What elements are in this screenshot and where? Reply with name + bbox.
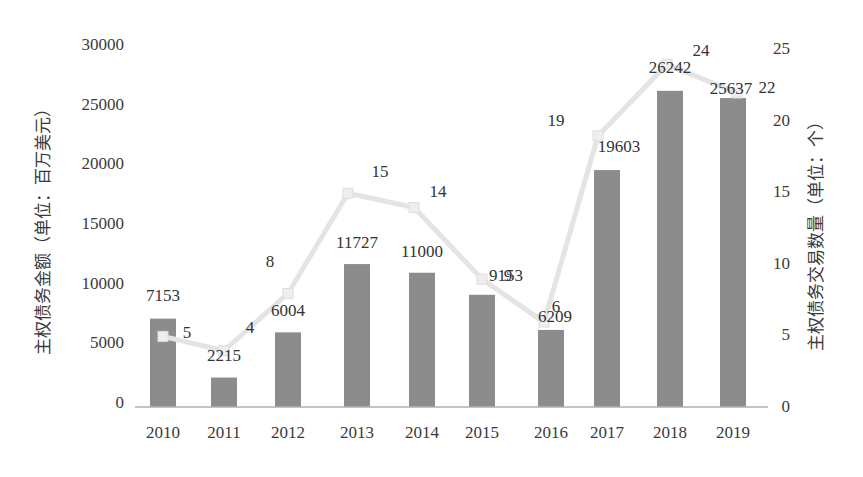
bar-2017 xyxy=(594,170,620,407)
bar-value-label: 2215 xyxy=(207,346,241,365)
x-tick-label: 2016 xyxy=(534,423,568,442)
line-value-label: 4 xyxy=(246,318,255,337)
left-y-axis-title: 主权债务金额（单位：百万美元） xyxy=(34,100,53,355)
x-tick-label: 2013 xyxy=(340,423,374,442)
bar-2014 xyxy=(409,273,435,407)
bar-2012 xyxy=(275,332,301,407)
left-y-tick-label: 20000 xyxy=(82,154,125,173)
x-tick-label: 2017 xyxy=(590,423,625,442)
x-tick-label: 2018 xyxy=(653,423,687,442)
bar-value-label: 26242 xyxy=(649,58,692,77)
line-value-label: 14 xyxy=(430,182,448,201)
line-value-label: 15 xyxy=(372,162,389,181)
line-value-label: 19 xyxy=(548,111,565,130)
line-value-label: 22 xyxy=(759,78,776,97)
line-marker-2014 xyxy=(409,203,419,213)
line-value-label: 5 xyxy=(183,323,192,342)
right-y-tick-label: 15 xyxy=(773,182,790,201)
bar-value-label: 6004 xyxy=(271,301,306,320)
right-y-tick-label: 10 xyxy=(773,254,790,273)
x-tick-label: 2015 xyxy=(465,423,499,442)
right-y-tick-label: 25 xyxy=(773,39,790,58)
line-value-label: 24 xyxy=(693,41,711,60)
bar-2016 xyxy=(538,330,564,407)
line-marker-2010 xyxy=(158,331,168,341)
x-tick-label: 2014 xyxy=(405,423,440,442)
line-marker-2015 xyxy=(477,274,487,284)
line-marker-2013 xyxy=(343,188,353,198)
bar-value-label: 19603 xyxy=(598,137,641,156)
left-y-tick-label: 0 xyxy=(116,393,125,412)
bar-value-label: 7153 xyxy=(146,286,180,305)
bar-2019 xyxy=(720,98,746,407)
x-axis-ticks: 2010201120122013201420152016201720182019 xyxy=(146,423,750,442)
bar-2018 xyxy=(657,91,683,407)
line-series xyxy=(158,59,742,355)
x-tick-label: 2010 xyxy=(146,423,180,442)
line-value-label: 9 xyxy=(504,266,513,285)
x-tick-label: 2019 xyxy=(716,423,750,442)
right-y-tick-label: 0 xyxy=(782,397,791,416)
right-y-axis-title: 主权债务交易数量（单位：个） xyxy=(807,113,826,351)
left-y-tick-label: 25000 xyxy=(82,95,125,114)
left-y-tick-label: 30000 xyxy=(82,35,125,54)
bar-value-label: 25637 xyxy=(710,79,753,98)
bar-2013 xyxy=(344,264,370,407)
bar-2011 xyxy=(211,378,237,407)
bar-value-label: 11727 xyxy=(336,233,378,252)
bar-2015 xyxy=(469,295,495,407)
line-value-label: 8 xyxy=(266,252,275,271)
right-y-tick-label: 5 xyxy=(782,325,791,344)
line-marker-2012 xyxy=(283,288,293,298)
right-y-tick-label: 20 xyxy=(773,111,790,130)
x-tick-label: 2012 xyxy=(271,423,305,442)
x-tick-label: 2011 xyxy=(207,423,240,442)
right-y-axis-ticks: 0510152025 xyxy=(773,39,790,416)
left-y-tick-label: 15000 xyxy=(82,214,125,233)
chart-canvas: 050001000015000200002500030000 051015202… xyxy=(0,0,863,477)
left-y-tick-label: 10000 xyxy=(82,274,125,293)
line-path xyxy=(163,64,737,350)
bar-value-label: 11000 xyxy=(401,242,443,261)
line-value-label: 6 xyxy=(552,297,561,316)
left-y-axis-ticks: 050001000015000200002500030000 xyxy=(82,35,125,412)
left-y-tick-label: 5000 xyxy=(90,333,124,352)
